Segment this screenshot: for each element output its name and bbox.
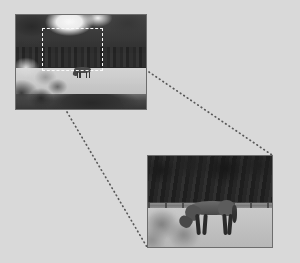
detail-horse — [183, 199, 240, 235]
detail-horse-leg — [195, 214, 201, 235]
overview-photo[interactable] — [15, 14, 147, 110]
selection-rectangle[interactable] — [42, 28, 103, 71]
overview-horse-leg — [86, 72, 88, 78]
connector-bottom-line — [67, 112, 147, 247]
connector-top-line — [149, 72, 272, 155]
overview-horse-leg — [79, 72, 81, 78]
figure-canvas — [0, 0, 300, 263]
detail-treeline — [148, 156, 272, 203]
overview-horse-leg — [89, 72, 91, 78]
detail-photo[interactable] — [147, 155, 273, 248]
detail-horse-tail — [232, 205, 238, 223]
overview-horse-leg — [77, 72, 79, 78]
detail-horse-leg — [203, 214, 208, 235]
detail-horse-leg — [227, 214, 233, 235]
